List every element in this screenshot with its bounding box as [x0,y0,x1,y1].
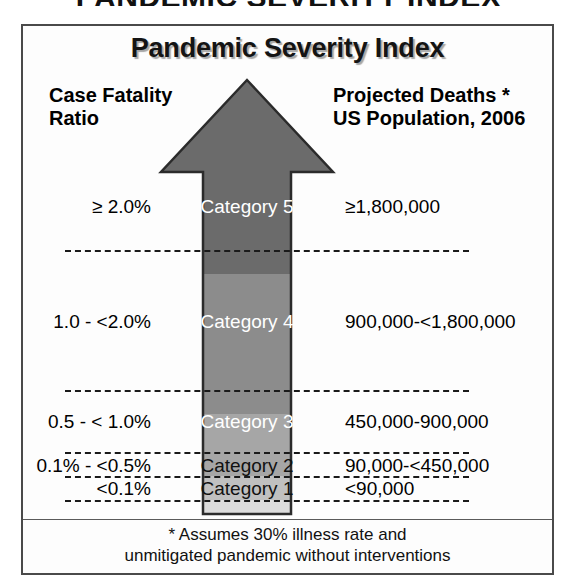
projected-deaths-category-4: 900,000-<1,800,000 [345,311,557,333]
footnote-line-2: unmitigated pandemic without interventio… [23,545,552,566]
pandemic-severity-index-figure: PANDEMIC SEVERITY INDEX Pandemic Severit… [0,0,577,588]
projected-deaths-category-3: 450,000-900,000 [345,411,557,433]
projected-deaths-category-1: <90,000 [345,478,557,500]
projected-deaths-category-2: 90,000-<450,000 [345,455,557,477]
arrow-label-category-4: Category 4 [163,311,331,333]
footnote-divider [23,519,552,520]
row-rule-bottom [65,500,469,502]
case-fatality-ratio-category-1: <0.1% [23,478,151,500]
cut-off-headline: PANDEMIC SEVERITY INDEX [0,0,577,6]
case-fatality-ratio-category-2: 0.1% - <0.5% [23,455,151,477]
row-rule-5-4 [65,250,469,252]
severity-arrow [157,78,337,516]
arrow-label-category-2: Category 2 [163,455,331,477]
arrow-label-category-3: Category 3 [163,411,331,433]
footnote: * Assumes 30% illness rate and unmitigat… [23,524,552,566]
severity-index-panel: Pandemic Severity Index Case Fatality Ra… [21,24,554,575]
page-title: Pandemic Severity Index [23,33,552,64]
case-fatality-ratio-category-4: 1.0 - <2.0% [33,311,151,333]
arrow-label-category-5: Category 5 [163,196,331,218]
band-category-4 [157,274,337,414]
column-header-line-1: Projected Deaths * [333,84,553,107]
case-fatality-ratio-category-3: 0.5 - < 1.0% [33,411,151,433]
row-rule-4-3 [65,390,469,392]
projected-deaths-category-5: ≥1,800,000 [345,196,555,218]
band-category-5 [157,78,337,274]
case-fatality-ratio-category-5: ≥ 2.0% [43,196,151,218]
footnote-line-1: * Assumes 30% illness rate and [23,524,552,545]
arrow-label-category-1: Category 1 [163,478,331,500]
column-header-projected-deaths: Projected Deaths * US Population, 2006 [333,84,553,130]
column-header-line-2: US Population, 2006 [333,107,553,130]
row-rule-3-2 [65,452,469,454]
